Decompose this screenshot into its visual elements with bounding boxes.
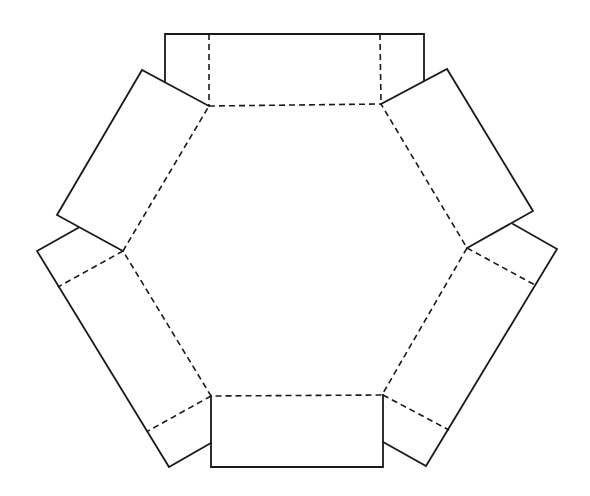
lower-right-fold-top bbox=[467, 248, 535, 285]
lower-left-fold-top bbox=[58, 251, 123, 287]
top-flap bbox=[165, 34, 424, 106]
lower-left-fold-bottom bbox=[148, 396, 211, 431]
lower-left-panel bbox=[37, 228, 211, 467]
top-flap-outline bbox=[165, 34, 424, 81]
upper-right-panel bbox=[381, 69, 533, 248]
upper-right-panel-outline bbox=[381, 69, 533, 248]
lower-right-panel-outline bbox=[383, 224, 557, 466]
lower-right-panel bbox=[383, 224, 557, 466]
upper-left-panel-outline bbox=[57, 70, 209, 251]
base-hexagon bbox=[123, 104, 467, 396]
hexagonal-box-net bbox=[0, 0, 590, 496]
lower-left-panel-outline bbox=[37, 228, 211, 467]
bottom-flap-outline bbox=[211, 395, 383, 467]
bottom-flap bbox=[211, 395, 383, 467]
upper-left-panel bbox=[57, 70, 209, 251]
top-flap-fold-right bbox=[380, 34, 381, 104]
lower-right-fold-bottom bbox=[383, 395, 449, 430]
